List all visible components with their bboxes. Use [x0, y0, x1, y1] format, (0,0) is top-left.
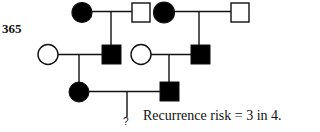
affected-female-III-1: [69, 82, 89, 102]
affected-male-II-4: [191, 45, 210, 64]
unaffected-female-II-1: [38, 45, 58, 65]
unaffected-male-I-4: [231, 3, 249, 22]
affected-female-I-3: [154, 2, 175, 23]
unknown-offspring-marker: ?: [123, 116, 129, 127]
recurrence-risk-caption: Recurrence risk = 3 in 4.: [143, 108, 281, 124]
affected-male-II-2: [102, 45, 121, 64]
affected-male-III-2: [160, 82, 179, 101]
affected-female-I-1: [72, 3, 92, 23]
unaffected-female-II-3: [131, 45, 151, 65]
unaffected-male-I-2: [132, 3, 150, 22]
